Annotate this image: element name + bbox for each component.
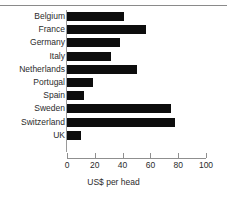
bar-category-label: Sweden bbox=[3, 102, 65, 115]
bar-chart-figure: BelgiumFranceGermanyItalyNetherlandsPort… bbox=[0, 0, 227, 198]
bar-row: France bbox=[0, 23, 227, 36]
x-tick-mark bbox=[95, 153, 96, 158]
bar bbox=[67, 118, 175, 127]
x-tick-mark bbox=[206, 153, 207, 158]
bar-category-label: Switzerland bbox=[3, 116, 65, 129]
bar-category-label: Spain bbox=[3, 89, 65, 102]
bar-row: Germany bbox=[0, 36, 227, 49]
bar bbox=[67, 12, 124, 21]
bar-category-label: Netherlands bbox=[3, 63, 65, 76]
x-tick-label: 0 bbox=[52, 160, 82, 171]
x-axis-title: US$ per head bbox=[0, 177, 227, 187]
bar bbox=[67, 91, 84, 100]
bar-row: Italy bbox=[0, 50, 227, 63]
bar-category-label: Belgium bbox=[3, 10, 65, 23]
x-tick-label: 100 bbox=[191, 160, 221, 171]
x-tick-label: 60 bbox=[135, 160, 165, 171]
x-tick-label: 80 bbox=[163, 160, 193, 171]
x-tick-mark bbox=[67, 153, 68, 158]
bar-row: Belgium bbox=[0, 10, 227, 23]
bar-category-label: Italy bbox=[3, 50, 65, 63]
bar-category-label: UK bbox=[3, 129, 65, 142]
bar-row: Portugal bbox=[0, 76, 227, 89]
bar bbox=[67, 25, 146, 34]
x-tick-label: 20 bbox=[80, 160, 110, 171]
bar-category-label: Germany bbox=[3, 36, 65, 49]
bar bbox=[67, 104, 171, 113]
bar-row: Switzerland bbox=[0, 116, 227, 129]
x-tick-mark bbox=[150, 153, 151, 158]
bar-category-label: Portugal bbox=[3, 76, 65, 89]
x-tick-label: 40 bbox=[108, 160, 138, 171]
x-axis-line bbox=[67, 158, 206, 159]
bar bbox=[67, 78, 93, 87]
bar-row: Spain bbox=[0, 89, 227, 102]
bar-category-label: France bbox=[3, 23, 65, 36]
x-tick-mark bbox=[123, 153, 124, 158]
bar bbox=[67, 38, 120, 47]
bar bbox=[67, 52, 111, 61]
plot-area: BelgiumFranceGermanyItalyNetherlandsPort… bbox=[0, 0, 227, 198]
bar-row: Netherlands bbox=[0, 63, 227, 76]
bar-row: UK bbox=[0, 129, 227, 142]
x-tick-mark bbox=[178, 153, 179, 158]
bar bbox=[67, 131, 81, 140]
bar-row: Sweden bbox=[0, 102, 227, 115]
bar bbox=[67, 65, 137, 74]
